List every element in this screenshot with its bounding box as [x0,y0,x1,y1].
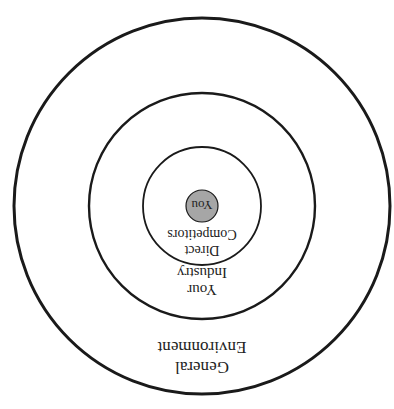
middle-ring-label-industry: Industry [177,265,227,281]
inner-ring-label-competitors: Competitors [167,227,236,242]
concentric-environment-diagram: You Direct Direct Competitors Your Indus… [0,0,394,409]
center-label-you: You [191,198,213,213]
inner-ring-label-direct: Direct [184,243,219,258]
middle-ring-label-your: Your [187,282,216,298]
diagram-canvas: You Direct Direct Competitors Your Indus… [0,0,394,409]
outer-ring-label-general: General [175,358,229,377]
outer-ring-label-environment: Environment [157,338,246,357]
